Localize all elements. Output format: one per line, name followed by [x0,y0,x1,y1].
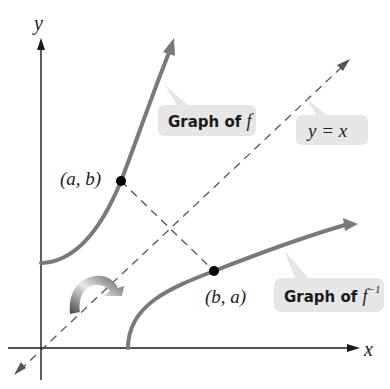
y-axis-label: y [32,12,43,35]
inverse-function-diagram: y x (a, b) (b, a) Graph of f y [0,0,390,389]
reflection-arrow-icon [70,276,124,314]
point-ab [116,176,126,186]
graph-of-f-curve [41,38,175,263]
callout-graph-of-f-inverse: Graph of f−1 [274,250,384,312]
graph-finv-arrow-icon [343,218,358,231]
point-ba-label: (b, a) [205,286,246,308]
point-ab-label: (a, b) [60,168,101,190]
callout-graph-of-f: Graph of f [158,85,256,136]
svg-text:Graph of f: Graph of f [168,111,255,131]
graph-f-label-prefix: Graph of [168,113,247,131]
graph-f-arrow-icon [163,38,175,56]
identity-line-arrow-down-icon [14,362,26,375]
y-axis-arrow-icon [37,38,45,50]
y-axis [37,38,45,380]
reflection-connector [121,181,214,271]
point-ba [209,266,219,276]
x-axis-label: x [363,338,373,360]
callout-identity: y = x [296,98,368,145]
graph-finv-label-prefix: Graph of [284,288,363,306]
x-axis [8,344,360,352]
x-axis-arrow-icon [347,344,360,352]
graph-finv-label-sup: −1 [368,283,381,295]
identity-line-label: y = x [306,120,348,141]
